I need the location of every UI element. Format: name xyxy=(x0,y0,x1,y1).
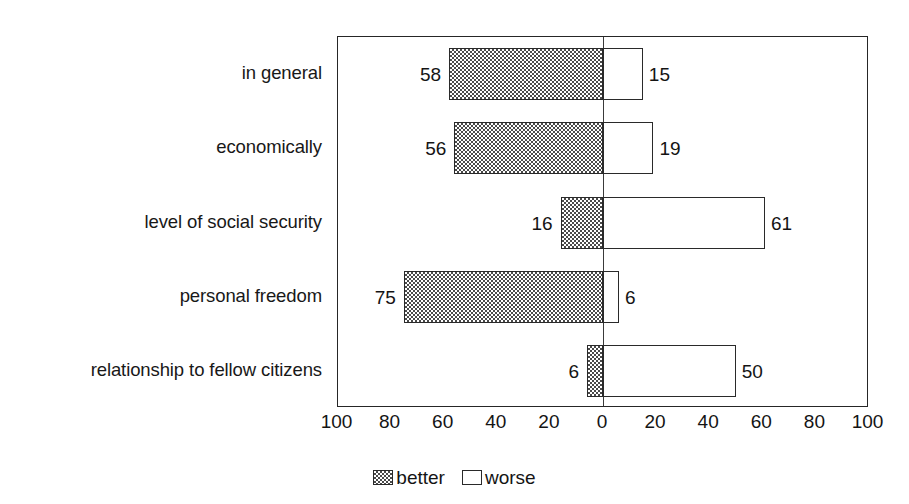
legend-swatch-worse-icon xyxy=(462,470,482,485)
x-tick-label: 40 xyxy=(698,412,719,431)
value-label-better: 75 xyxy=(375,288,396,307)
plot-area: 581556191661756650 xyxy=(337,36,868,407)
category-label: level of social security xyxy=(144,213,322,232)
bar-worse xyxy=(603,271,619,323)
value-label-better: 6 xyxy=(569,362,580,381)
value-label-better: 16 xyxy=(531,214,552,233)
x-tick-label: 100 xyxy=(321,412,353,431)
bar-worse xyxy=(603,345,736,397)
x-tick-label: 80 xyxy=(804,412,825,431)
category-label: in general xyxy=(242,64,322,83)
category-label: personal freedom xyxy=(180,287,322,306)
value-label-worse: 19 xyxy=(659,139,680,158)
bar-worse xyxy=(603,197,765,249)
value-label-worse: 6 xyxy=(625,288,636,307)
legend-item-better[interactable]: better xyxy=(373,468,445,487)
x-tick-label: 20 xyxy=(645,412,666,431)
bar-better xyxy=(587,345,603,397)
bar-better xyxy=(561,197,603,249)
x-axis-ticks: 10080604020020406080100 xyxy=(337,409,868,439)
x-tick-label: 40 xyxy=(485,412,506,431)
x-tick-label: 80 xyxy=(379,412,400,431)
category-axis-labels: in generaleconomicallylevel of social se… xyxy=(0,36,330,407)
category-label: relationship to fellow citizens xyxy=(91,361,322,380)
x-tick-label: 100 xyxy=(852,412,884,431)
value-label-better: 56 xyxy=(425,139,446,158)
value-label-worse: 15 xyxy=(649,65,670,84)
x-tick-label: 60 xyxy=(751,412,772,431)
value-label-worse: 61 xyxy=(771,214,792,233)
bar-worse xyxy=(603,122,653,174)
x-tick-label: 20 xyxy=(538,412,559,431)
bar-better xyxy=(449,48,603,100)
chart-legend: better worse xyxy=(0,462,909,492)
legend-swatch-better-icon xyxy=(373,470,393,485)
legend-item-worse[interactable]: worse xyxy=(462,468,536,487)
value-label-better: 58 xyxy=(420,65,441,84)
legend-label-better: better xyxy=(396,468,445,487)
value-label-worse: 50 xyxy=(742,362,763,381)
legend-label-worse: worse xyxy=(485,468,536,487)
bar-better xyxy=(454,122,603,174)
bar-chart: in generaleconomicallylevel of social se… xyxy=(0,0,909,504)
bar-worse xyxy=(603,48,643,100)
bar-better xyxy=(404,271,603,323)
x-tick-label: 60 xyxy=(432,412,453,431)
x-tick-label: 0 xyxy=(597,412,608,431)
category-label: economically xyxy=(216,138,322,157)
